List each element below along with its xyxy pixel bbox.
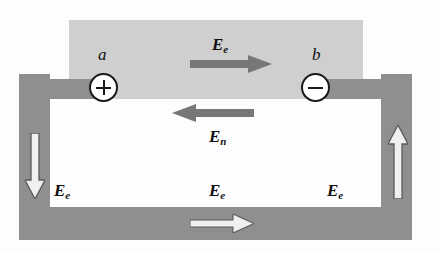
label-En-subscript: n [220, 135, 226, 147]
label-Ee-bottom-symbol: E [209, 181, 220, 200]
label-Ee-right: Ee [327, 182, 343, 201]
label-Ee-top: Ee [212, 36, 228, 55]
arrow-Ee-top-right [190, 55, 272, 73]
label-Ee-bottom-subscript: e [220, 189, 225, 201]
label-Ee-top-symbol: E [212, 35, 223, 54]
label-Ee-left: Ee [54, 182, 70, 201]
arrow-Ee-left-down [25, 133, 45, 199]
label-Ee-top-subscript: e [223, 43, 228, 55]
minus-icon-stroke [308, 87, 323, 90]
terminal-label-b: b [312, 46, 321, 63]
arrow-En-middle-left [172, 104, 254, 122]
label-Ee-right-subscript: e [338, 189, 343, 201]
label-Ee-left-symbol: E [54, 181, 65, 200]
label-Ee-bottom: Ee [209, 182, 225, 201]
label-Ee-left-subscript: e [65, 189, 70, 201]
label-En-middle: En [209, 128, 226, 147]
negative-terminal [301, 73, 330, 102]
terminal-label-a: a [98, 46, 107, 63]
label-Ee-right-symbol: E [327, 181, 338, 200]
arrow-Ee-bottom-right [190, 214, 254, 233]
label-En-symbol: E [209, 127, 220, 146]
arrow-Ee-right-up [388, 125, 408, 199]
plus-icon-vertical-stroke [103, 80, 106, 95]
positive-terminal [89, 73, 118, 102]
conductor-right-stub [316, 79, 412, 99]
physics-circuit-field-diagram: a b Ee En Ee Ee Ee [0, 0, 440, 253]
